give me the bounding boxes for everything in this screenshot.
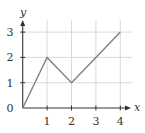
x-tick-label: 4 — [117, 115, 124, 128]
y-axis-arrow-icon — [20, 20, 25, 26]
axes: x y — [19, 6, 141, 114]
line-chart: x y 12340123 — [0, 0, 145, 133]
x-axis-arrow-icon — [125, 106, 131, 111]
grid-lines — [23, 20, 132, 108]
y-tick-label: 0 — [7, 102, 14, 115]
y-tick-label: 2 — [7, 51, 14, 64]
x-tick-label: 1 — [44, 115, 51, 128]
y-tick-label: 1 — [7, 77, 14, 90]
x-axis-label: x — [134, 101, 141, 114]
x-tick-label: 2 — [68, 115, 75, 128]
x-tick-label: 3 — [92, 115, 99, 128]
y-tick-label: 3 — [7, 26, 14, 39]
y-axis-label: y — [19, 6, 27, 19]
